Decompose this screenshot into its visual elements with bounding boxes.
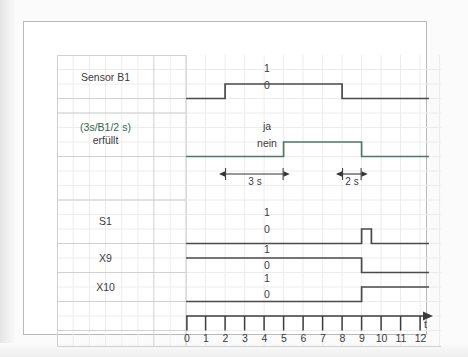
tick-label-11: 11 xyxy=(392,332,410,344)
page-background: Sensor B1 (3s/B1/2 s) erfüllt S1 X9 X10 … xyxy=(0,0,468,357)
tick-label-7: 7 xyxy=(314,332,332,344)
tick-label-12: 12 xyxy=(412,332,430,344)
tick-label-3: 3 xyxy=(236,332,254,344)
tick-label-9: 9 xyxy=(353,332,371,344)
waveform-x9 xyxy=(186,258,429,273)
tick-label-6: 6 xyxy=(295,332,313,344)
tick-label-1: 1 xyxy=(197,332,215,344)
waveform-erfuellt xyxy=(186,142,429,157)
figure-frame: Sensor B1 (3s/B1/2 s) erfüllt S1 X9 X10 … xyxy=(23,21,427,335)
duration-label-2s: 2 s xyxy=(338,176,366,188)
waveform-sensor-b1 xyxy=(186,84,429,99)
tick-label-10: 10 xyxy=(373,332,391,344)
waveform-x10 xyxy=(186,287,429,302)
time-axis-label: t xyxy=(424,318,427,330)
tick-label-5: 5 xyxy=(275,332,293,344)
timing-diagram: Sensor B1 (3s/B1/2 s) erfüllt S1 X9 X10 … xyxy=(57,55,441,347)
waveform-layer xyxy=(57,55,441,347)
scan-edge-shadow-left xyxy=(0,0,16,357)
duration-label-3s: 3 s xyxy=(241,176,269,188)
waveform-s1 xyxy=(186,229,429,244)
tick-label-2: 2 xyxy=(217,332,235,344)
tick-label-8: 8 xyxy=(334,332,352,344)
time-axis xyxy=(186,312,433,331)
tick-label-4: 4 xyxy=(256,332,274,344)
tick-label-0: 0 xyxy=(178,332,196,344)
